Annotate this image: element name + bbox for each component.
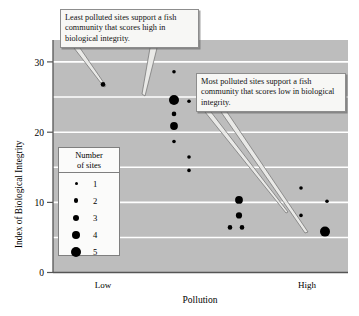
callout-least-polluted: Least polluted sites support a fish comm… [60,9,199,48]
legend-item: 3 [59,209,119,226]
data-point [240,225,245,230]
data-point [170,122,178,130]
legend-title: Number of sites [59,148,119,173]
legend-dot-icon [59,182,93,185]
legend-item-label: 3 [93,213,97,223]
data-point [169,95,179,105]
data-point [235,196,243,204]
x-tick-label-high: High [298,280,317,290]
data-point [228,225,233,230]
data-point [101,82,106,87]
legend-item: 1 [59,175,119,192]
legend-item: 4 [59,226,119,243]
legend-item-label: 2 [93,196,97,206]
x-tick-label-low: Low [95,280,112,290]
y-axis-ticks [47,62,53,273]
legend-item: 2 [59,192,119,209]
data-point [172,140,176,144]
legend-entries: 1 2 3 4 [59,173,119,260]
y-tick-label-30: 30 [35,58,45,68]
figure-caption [3,304,253,315]
legend-title-line1: Number [61,151,117,161]
data-point [187,100,191,104]
y-tick-label-0: 0 [39,268,44,278]
legend-dot-icon [59,231,93,239]
callout-most-polluted: Most polluted sites support a fish commu… [196,73,346,112]
y-tick-label-10: 10 [35,198,45,208]
legend: Number of sites 1 2 3 [58,147,120,256]
figure-container: Index of Biological Integrity 30 20 [0,0,359,316]
legend-item-label: 5 [93,247,97,257]
data-point [299,214,303,218]
legend-dot-icon [59,198,93,203]
data-point [325,200,329,204]
data-point [187,155,191,159]
legend-item-label: 1 [93,179,97,189]
legend-dot-icon [59,215,93,221]
data-point [172,112,177,117]
y-tick-label-20: 20 [35,128,45,138]
data-point [236,212,242,218]
legend-title-line2: of sites [61,161,117,171]
legend-item-label: 4 [93,230,97,240]
data-point [187,169,191,173]
legend-dot-icon [59,247,93,257]
data-point [172,70,176,74]
legend-item: 5 [59,243,119,260]
data-point [299,186,303,190]
data-point [320,227,330,237]
